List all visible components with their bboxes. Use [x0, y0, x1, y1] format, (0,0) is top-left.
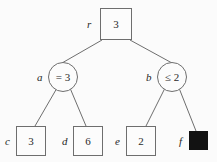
- game-tree-diagram: r3a= 3b≤ 2c3d6e2f: [0, 0, 217, 162]
- tree-node-e: 2: [126, 126, 156, 156]
- node-label-d: d: [62, 136, 68, 147]
- node-label-c: c: [5, 136, 10, 147]
- tree-edge-r-a: [62, 40, 102, 63]
- node-label-r: r: [87, 19, 91, 30]
- node-value-r: 3: [113, 19, 119, 30]
- node-label-a: a: [37, 72, 43, 83]
- node-label-e: e: [115, 136, 120, 147]
- tree-node-d: 6: [73, 126, 103, 156]
- tree-node-r: 3: [100, 8, 132, 40]
- node-label-b: b: [146, 72, 152, 83]
- tree-edge-b-f: [179, 88, 196, 131]
- node-value-b: ≤ 2: [165, 72, 179, 83]
- tree-edge-a-c: [35, 88, 57, 126]
- node-value-d: 6: [85, 136, 91, 147]
- tree-edge-b-e: [146, 88, 165, 126]
- node-value-c: 3: [28, 136, 34, 147]
- tree-edge-r-b: [130, 40, 172, 63]
- node-value-e: 2: [138, 136, 144, 147]
- tree-node-b: ≤ 2: [157, 62, 187, 92]
- node-value-a: = 3: [56, 72, 70, 83]
- tree-node-c: 3: [16, 126, 46, 156]
- tree-edge-a-d: [70, 88, 86, 126]
- tree-node-a: = 3: [48, 62, 78, 92]
- tree-node-f: [189, 131, 208, 150]
- node-label-f: f: [179, 136, 182, 147]
